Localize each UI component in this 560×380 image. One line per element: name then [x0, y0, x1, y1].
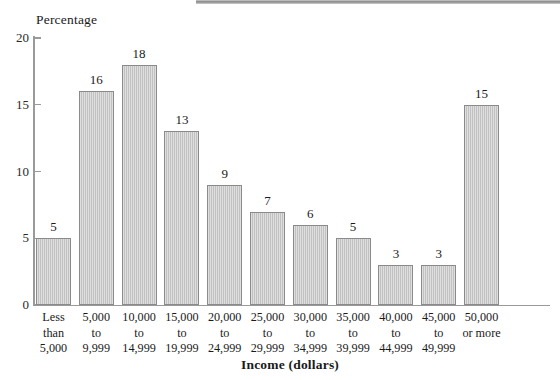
y-axis-tick-mark	[33, 171, 41, 172]
bar-value-label: 13	[156, 112, 207, 128]
bar	[79, 91, 114, 305]
bar-value-label: 5	[328, 219, 379, 235]
bar	[421, 265, 456, 305]
bar	[250, 212, 285, 305]
bar-value-label: 18	[114, 46, 165, 62]
y-axis-tick-mark	[33, 104, 41, 105]
category-label-line: 50,000	[455, 310, 508, 326]
bar-chart-plot: Percentage 05101520 516181397653315 Less…	[0, 0, 560, 380]
bar	[164, 131, 199, 305]
category-label-line: or more	[455, 326, 508, 342]
bar	[207, 185, 242, 305]
bar	[293, 225, 328, 305]
bar	[36, 238, 71, 305]
bar-value-label: 15	[456, 86, 507, 102]
x-axis-title-text: Income (dollars)	[241, 357, 339, 372]
y-axis-tick-label: 20	[3, 30, 29, 46]
bar-value-label: 16	[71, 72, 122, 88]
bar-value-label: 5	[28, 219, 79, 235]
bar	[122, 65, 157, 305]
bar-value-label: 3	[413, 246, 464, 262]
chart-page: Percentage 05101520 516181397653315 Less…	[0, 0, 560, 380]
y-axis-tick-label: 5	[3, 230, 29, 246]
y-axis-tick-label: 10	[3, 164, 29, 180]
y-axis-tick-label: 15	[3, 97, 29, 113]
bar	[378, 265, 413, 305]
y-axis-title: Percentage	[36, 12, 97, 28]
bar	[336, 238, 371, 305]
bar	[464, 105, 499, 305]
x-axis-category-label: 50,000or more	[455, 310, 508, 341]
category-label-line: 49,999	[412, 341, 465, 357]
bar-value-label: 9	[199, 166, 250, 182]
y-axis-tick-mark	[33, 37, 41, 38]
x-axis-line	[33, 305, 550, 306]
y-axis-tick-label: 0	[3, 297, 29, 313]
x-axis-title: Income (dollars)	[0, 357, 560, 373]
